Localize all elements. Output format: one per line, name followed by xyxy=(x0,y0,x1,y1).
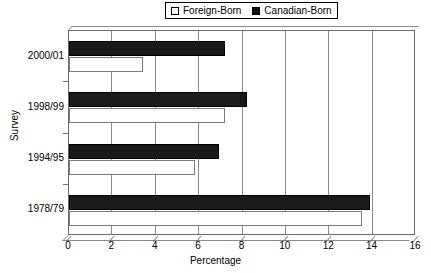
legend-swatch-canadian-born xyxy=(252,7,260,15)
bar-canadian-born-1978-79 xyxy=(69,195,370,210)
legend-label-foreign-born: Foreign-Born xyxy=(183,6,241,16)
legend-label-canadian-born: Canadian-Born xyxy=(264,6,331,16)
x-tick-label-16: 16 xyxy=(403,240,427,251)
x-tick-label-14: 14 xyxy=(360,240,384,251)
y-tick-divider-2 xyxy=(63,184,68,185)
x-tick-label-10: 10 xyxy=(273,240,297,251)
x-tick-label-2: 2 xyxy=(99,240,123,251)
x-tick-label-4: 4 xyxy=(143,240,167,251)
bar-foreign-born-1994-95 xyxy=(69,160,195,175)
y-tick-label-1978-79: 1978/79 xyxy=(2,203,64,214)
x-tick-label-12: 12 xyxy=(316,240,340,251)
y-tick-label-1994-95: 1994/95 xyxy=(2,152,64,163)
bar-foreign-born-2000-01 xyxy=(69,57,143,72)
legend-entry-canadian-born: Canadian-Born xyxy=(252,6,331,16)
legend-entry-foreign-born: Foreign-Born xyxy=(171,6,241,16)
bar-canadian-born-1998-99 xyxy=(69,92,247,107)
gridline-x-14 xyxy=(372,31,373,234)
bar-foreign-born-1998-99 xyxy=(69,108,225,123)
bar-foreign-born-1978-79 xyxy=(69,211,362,226)
y-tick-divider-0 xyxy=(63,81,68,82)
x-axis-title: Percentage xyxy=(0,255,431,266)
x-tick-label-0: 0 xyxy=(56,240,80,251)
bar-canadian-born-1994-95 xyxy=(69,144,219,159)
x-tick-label-6: 6 xyxy=(186,240,210,251)
bar-chart: Foreign-Born Canadian-Born Survey Percen… xyxy=(0,0,431,273)
legend-swatch-foreign-born xyxy=(171,7,179,15)
y-tick-label-1998-99: 1998/99 xyxy=(2,101,64,112)
x-tick-label-8: 8 xyxy=(230,240,254,251)
y-tick-divider-1 xyxy=(63,133,68,134)
chart-legend: Foreign-Born Canadian-Born xyxy=(165,2,338,19)
y-tick-label-2000-01: 2000/01 xyxy=(2,50,64,61)
bar-canadian-born-2000-01 xyxy=(69,41,225,56)
